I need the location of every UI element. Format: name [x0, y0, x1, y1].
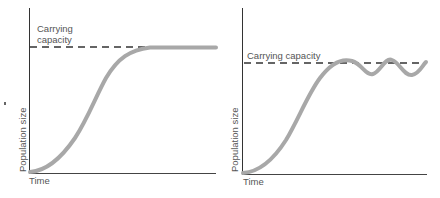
x-axis-label: Time: [29, 176, 50, 187]
tick-mark: [4, 102, 6, 105]
oscillating-chart-plot: [220, 0, 440, 198]
oscillating-growth-chart: Carrying capacity Time Population size: [220, 0, 440, 198]
logistic-growth-chart: Carrying capacity Time Population size: [0, 0, 220, 198]
carrying-capacity-label-line2: capacity: [37, 35, 72, 46]
y-axis-label: Population size: [17, 108, 28, 172]
oscillating-curve: [243, 60, 426, 173]
logistic-curve: [30, 48, 216, 173]
x-axis-label: Time: [243, 177, 264, 188]
carrying-capacity-label: Carrying capacity: [247, 51, 320, 62]
carrying-capacity-label-line1: Carrying: [37, 24, 73, 35]
y-axis-label: Population size: [229, 108, 240, 172]
logistic-chart-plot: [0, 0, 220, 198]
